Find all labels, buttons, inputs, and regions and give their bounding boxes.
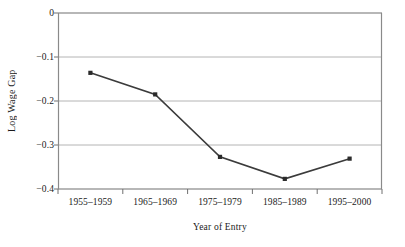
data-point — [218, 155, 222, 159]
x-tick-label-0: 1955–1959 — [58, 197, 123, 207]
x-tick-label-1: 1965–1969 — [123, 197, 188, 207]
x-tick-label-2: 1975–1979 — [188, 197, 253, 207]
x-axis-title: Year of Entry — [58, 222, 382, 232]
data-point — [348, 157, 352, 161]
x-tick-marks — [58, 189, 382, 194]
plot-area — [0, 0, 405, 247]
data-series-line — [90, 73, 349, 179]
chart-figure: Log Wage Gap 0 −0.1 −0.2 −0.3 −0.4 — [0, 0, 405, 247]
x-tick-label-4: 1995–2000 — [317, 197, 382, 207]
data-point — [153, 92, 157, 96]
gridlines — [58, 57, 382, 145]
y-tick-marks — [54, 13, 58, 189]
data-point — [283, 177, 287, 181]
data-point-markers — [88, 71, 351, 181]
x-tick-label-3: 1985–1989 — [252, 197, 317, 207]
data-point — [88, 71, 92, 75]
